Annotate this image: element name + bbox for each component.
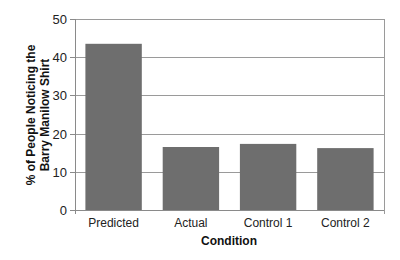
y-axis-title: % of People Noticing the Barry Manilow S…: [24, 44, 52, 185]
x-axis-title: Condition: [201, 234, 257, 248]
x-category-label: Actual: [174, 216, 207, 230]
x-category-label: Control 2: [321, 216, 370, 230]
bar-chart: 01020304050 PredictedActualControl 1Cont…: [0, 0, 400, 260]
bar-control-2: [317, 148, 373, 210]
bar-actual: [163, 147, 219, 210]
y-axis-title-line-1: % of People Noticing the: [24, 44, 38, 185]
y-tick-label: 0: [60, 203, 67, 218]
bars: [85, 44, 373, 210]
y-tick-label: 50: [53, 12, 67, 27]
y-axis-title-line-2: Barry Manilow Shirt: [38, 59, 52, 172]
x-category-label: Control 1: [244, 216, 293, 230]
y-tick-label: 40: [53, 50, 67, 65]
y-tick-label: 10: [53, 165, 67, 180]
bar-predicted: [85, 44, 141, 210]
y-tick-label: 20: [53, 127, 67, 142]
x-axis-categories: PredictedActualControl 1Control 2: [88, 216, 370, 230]
bar-control-1: [240, 144, 296, 210]
y-tick-label: 30: [53, 88, 67, 103]
x-category-label: Predicted: [88, 216, 139, 230]
y-axis-ticks: 01020304050: [53, 12, 75, 218]
